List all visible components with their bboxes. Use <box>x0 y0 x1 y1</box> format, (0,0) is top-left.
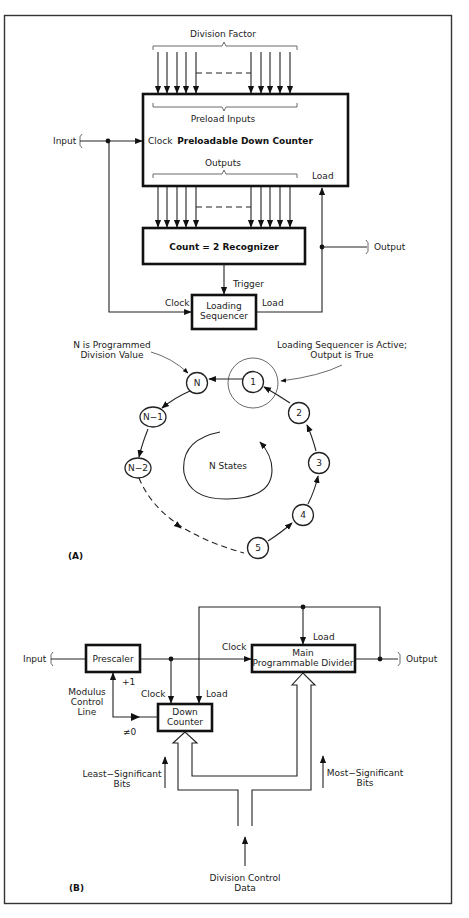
preload-input-arrows <box>158 52 290 93</box>
svg-text:N−1: N−1 <box>143 412 163 422</box>
state-diagram: N is Programmed Division Value Loading S… <box>73 340 407 559</box>
counter-output-arrows <box>158 187 290 227</box>
division-factor-brace <box>153 42 297 50</box>
outputs-label: Outputs <box>205 158 241 168</box>
svg-text:2: 2 <box>296 408 302 418</box>
preload-inputs-label: Preload Inputs <box>191 114 256 124</box>
note-active-line2: Output is True <box>310 350 374 360</box>
main-label-1: Main <box>292 648 314 658</box>
svg-text:3: 3 <box>316 458 322 468</box>
note-n-line2: Division Value <box>80 350 144 360</box>
state-5: 5 <box>248 538 269 559</box>
b-output-label: Output <box>406 654 438 664</box>
sequencer-label-2: Sequencer <box>200 311 248 321</box>
msb-label-1: Most−Significant <box>327 768 404 778</box>
state-n-minus-2: N−2 <box>125 458 151 478</box>
sequencer-clock-label: Clock <box>165 298 190 308</box>
panel-b-label: (B) <box>69 883 84 893</box>
dcd-label-1: Division Control <box>209 873 280 883</box>
down-label-1: Down <box>172 707 198 717</box>
n-states-label: N States <box>209 461 247 471</box>
svg-text:4: 4 <box>300 510 306 520</box>
msb-label-2: Bits <box>357 778 374 788</box>
state-n: N <box>187 373 208 394</box>
b-output-brace <box>398 652 400 666</box>
dc-clock-label: Clock <box>141 689 166 699</box>
state-3: 3 <box>309 453 330 474</box>
main-load-label: Load <box>313 632 335 642</box>
note-active-line1: Loading Sequencer is Active; <box>277 340 407 350</box>
svg-text:1: 1 <box>250 377 256 387</box>
clock-input-label: Clock <box>148 136 173 146</box>
input-junction-dot <box>106 139 111 144</box>
state-2: 2 <box>289 403 310 424</box>
state-4: 4 <box>293 505 314 526</box>
modulus-label-2: Control <box>71 697 104 707</box>
prescaler-label: Prescaler <box>92 654 133 664</box>
modulus-label-3: Line <box>78 707 97 717</box>
division-factor-label: Division Factor <box>190 29 256 39</box>
sequencer-load-label: Load <box>262 298 284 308</box>
divider-diagram: Division Factor Preload Inputs Clock Pre… <box>0 0 469 918</box>
dc-load-label: Load <box>206 689 228 699</box>
recognizer-label: Count = 2 Recognizer <box>169 242 279 252</box>
state-n-minus-1: N−1 <box>140 407 166 427</box>
division-control-bus <box>173 673 315 826</box>
output-label: Output <box>374 242 406 252</box>
modulus-label-1: Modulus <box>68 687 106 697</box>
load-input-label: Load <box>312 171 334 181</box>
note-n-line1: N is Programmed <box>73 340 151 350</box>
svg-text:N−2: N−2 <box>128 463 148 473</box>
plus-one-label: +1 <box>122 677 135 687</box>
lsb-label-2: Bits <box>114 779 131 789</box>
main-clock-label: Clock <box>222 642 247 652</box>
b-input-label: Input <box>23 654 47 664</box>
lsb-label-1: Least−Significant <box>82 769 162 779</box>
sequencer-label-1: Loading <box>206 301 242 311</box>
svg-text:N: N <box>194 378 201 388</box>
main-label-2: Programmable Divider <box>252 658 353 668</box>
down-label-2: Counter <box>167 717 203 727</box>
input-label: Input <box>53 136 77 146</box>
panel-a-label: (A) <box>68 551 83 561</box>
panel-b: Input Prescaler Clock Main Programmable … <box>23 605 438 893</box>
counter-title: Preloadable Down Counter <box>177 136 313 146</box>
panel-a: Division Factor Preload Inputs Clock Pre… <box>53 29 407 561</box>
state-1: 1 <box>243 372 264 393</box>
svg-text:5: 5 <box>255 543 261 553</box>
trigger-label: Trigger <box>232 279 264 289</box>
neq-zero-label: ≠0 <box>123 727 137 737</box>
dcd-label-2: Data <box>234 883 256 893</box>
